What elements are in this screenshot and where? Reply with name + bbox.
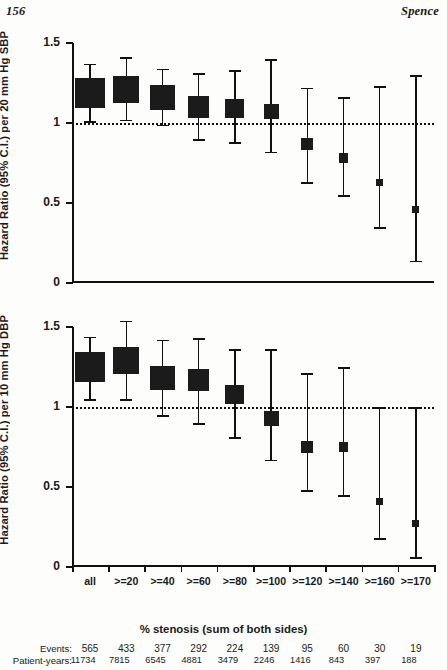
ci-lower-cap xyxy=(410,557,422,559)
estimate-marker xyxy=(113,347,139,373)
x-tick-label: >=80 xyxy=(223,575,247,587)
estimate-marker xyxy=(150,85,175,110)
estimate-marker xyxy=(301,138,313,150)
estimate-marker xyxy=(264,104,279,119)
plot-area-dbp xyxy=(72,327,434,567)
x-tick xyxy=(325,565,327,572)
ci-upper-cap xyxy=(265,59,277,61)
y-tick xyxy=(66,486,73,488)
ci-lower-cap xyxy=(84,121,96,123)
x-tick-label: >=160 xyxy=(365,575,395,587)
counts-patient-years-label: Patient-years: xyxy=(13,655,72,666)
patient-years-count: 843 xyxy=(329,655,344,665)
ci-upper-cap xyxy=(120,57,132,59)
estimate-marker xyxy=(113,76,139,102)
x-tick-label: >=120 xyxy=(292,575,322,587)
events-count: 95 xyxy=(302,643,313,654)
forest-plot-figure: Hazard Ratio (95% C.I.) per 20 mm Hg SBP… xyxy=(0,26,447,646)
events-count: 224 xyxy=(227,643,244,654)
estimate-marker xyxy=(225,385,244,404)
y-tick xyxy=(66,326,73,328)
y-tick-label: 0 xyxy=(53,275,60,289)
ci-upper-cap xyxy=(229,70,241,72)
x-tick-label: >=140 xyxy=(328,575,358,587)
ci-lower-cap xyxy=(84,399,96,401)
estimate-marker xyxy=(339,153,349,163)
x-tick xyxy=(217,565,219,572)
counts-events-label: Events: xyxy=(40,643,72,654)
x-axis-title: % stenosis (sum of both sides) xyxy=(0,623,447,635)
ci-lower-cap xyxy=(301,490,313,492)
events-count: 30 xyxy=(374,643,385,654)
ci-upper-cap xyxy=(84,337,96,339)
ci-upper-cap xyxy=(374,407,386,409)
patient-years-count: 3479 xyxy=(218,655,238,665)
y-axis-title-dbp: Hazard Ratio (95% C.I.) per 10 mm Hg DBP xyxy=(0,310,14,550)
x-tick xyxy=(181,565,183,572)
ci-lower-cap xyxy=(229,142,241,144)
estimate-marker xyxy=(150,366,175,391)
ci-upper-cap xyxy=(193,73,205,75)
ci-lower-cap xyxy=(265,460,277,462)
y-axis-title-sbp: Hazard Ratio (95% C.I.) per 20 mm Hg SBP xyxy=(0,26,14,266)
y-axis-title-sbp-label: Hazard Ratio (95% C.I.) per 20 mm Hg SBP xyxy=(0,31,10,260)
estimate-marker xyxy=(225,99,244,118)
x-tick xyxy=(362,565,364,572)
y-tick-label: 1.5 xyxy=(43,319,60,333)
events-count: 139 xyxy=(263,643,280,654)
estimate-marker xyxy=(188,369,210,391)
running-head: 156 Spence xyxy=(0,4,447,22)
ci-upper-cap xyxy=(338,367,350,369)
ci-upper-cap xyxy=(229,349,241,351)
counts-table: Events: 56543337729222413995603019 Patie… xyxy=(0,643,447,670)
ci-upper-cap xyxy=(120,321,132,323)
ci-lower-cap xyxy=(120,399,132,401)
confidence-interval-line xyxy=(307,88,309,182)
estimate-marker xyxy=(339,442,349,452)
y-tick-label: 1 xyxy=(53,115,60,129)
ci-upper-cap xyxy=(338,97,350,99)
estimate-marker xyxy=(301,441,313,453)
ci-lower-cap xyxy=(193,423,205,425)
patient-years-count: 2246 xyxy=(254,655,274,665)
patient-years-count: 6545 xyxy=(145,655,165,665)
y-tick xyxy=(66,406,73,408)
ci-lower-cap xyxy=(410,261,422,263)
x-tick xyxy=(398,565,400,572)
confidence-interval-line xyxy=(343,367,345,495)
confidence-interval-line xyxy=(415,75,417,261)
x-tick xyxy=(108,565,110,572)
ci-lower-cap xyxy=(374,227,386,229)
confidence-interval-line xyxy=(379,86,381,227)
ci-lower-cap xyxy=(120,120,132,122)
y-axis-title-dbp-label: Hazard Ratio (95% C.I.) per 10 mm Hg DBP xyxy=(0,315,10,545)
x-tick-label: >=60 xyxy=(187,575,211,587)
events-count: 377 xyxy=(154,643,171,654)
estimate-marker xyxy=(75,78,105,108)
events-count: 433 xyxy=(118,643,135,654)
ci-lower-cap xyxy=(157,125,169,127)
y-tick-label: 0 xyxy=(53,559,60,573)
ci-lower-cap xyxy=(265,152,277,154)
ci-lower-cap xyxy=(193,139,205,141)
ci-lower-cap xyxy=(301,182,313,184)
patient-years-count: 4881 xyxy=(181,655,201,665)
x-tick xyxy=(144,565,146,572)
y-tick xyxy=(66,122,73,124)
x-tick xyxy=(253,565,255,572)
estimate-marker xyxy=(75,352,105,382)
ci-upper-cap xyxy=(410,407,422,409)
y-tick xyxy=(66,42,73,44)
y-tick-label: 0.5 xyxy=(43,195,60,209)
estimate-marker xyxy=(188,96,210,118)
y-tick-label: 1 xyxy=(53,399,60,413)
x-tick-label: >=100 xyxy=(256,575,286,587)
confidence-interval-line xyxy=(307,373,309,490)
ci-upper-cap xyxy=(193,338,205,340)
ci-upper-cap xyxy=(374,86,386,88)
estimate-marker xyxy=(412,206,419,213)
events-count: 60 xyxy=(338,643,349,654)
estimate-marker xyxy=(412,520,419,527)
x-tick xyxy=(434,565,436,572)
